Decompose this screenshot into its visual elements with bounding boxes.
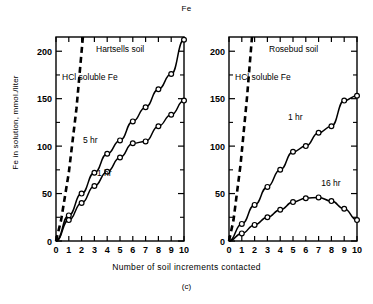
data-point-16-hr bbox=[239, 231, 244, 236]
series-label-5-hr: 5 hr bbox=[83, 135, 98, 145]
x-tick-label: 1 bbox=[66, 245, 71, 255]
data-point-5-hr bbox=[156, 87, 161, 92]
x-tick-label: 2 bbox=[79, 245, 84, 255]
data-point-1-hr bbox=[329, 124, 334, 129]
data-point-1-hr bbox=[182, 98, 187, 103]
x-tick-label: 6 bbox=[303, 245, 308, 255]
data-point-5-hr bbox=[130, 119, 135, 124]
y-tick-label: 50 bbox=[42, 189, 52, 199]
x-tick-label: 1 bbox=[239, 245, 244, 255]
x-tick-label: 7 bbox=[143, 245, 148, 255]
panel-title: Hartsells soil bbox=[96, 44, 144, 54]
x-tick-label: 5 bbox=[117, 245, 122, 255]
y-tick-label: 50 bbox=[215, 189, 225, 199]
y-tick-label: 100 bbox=[37, 142, 52, 152]
y-tick-label: 100 bbox=[210, 142, 225, 152]
data-point-5-hr bbox=[182, 37, 187, 42]
data-point-16-hr bbox=[355, 218, 360, 223]
series-line-hcl-soluble-fe bbox=[56, 37, 83, 241]
y-tick-label: 200 bbox=[210, 47, 225, 57]
data-point-1-hr bbox=[303, 144, 308, 149]
panel-left: 012345678910050100150200Hartsells soilHC… bbox=[37, 37, 189, 255]
data-point-1-hr bbox=[278, 167, 283, 172]
y-tick-label: 150 bbox=[37, 94, 52, 104]
data-point-5-hr bbox=[105, 151, 110, 156]
y-tick-label: 0 bbox=[47, 237, 52, 247]
data-point-5-hr bbox=[66, 213, 71, 218]
data-point-1-hr bbox=[118, 155, 123, 160]
x-tick-label: 3 bbox=[92, 245, 97, 255]
x-tick-label: 0 bbox=[53, 245, 58, 255]
data-point-16-hr bbox=[278, 207, 283, 212]
x-tick-label: 5 bbox=[290, 245, 295, 255]
data-point-1-hr bbox=[265, 185, 270, 190]
data-point-5-hr bbox=[169, 72, 174, 77]
data-point-16-hr bbox=[303, 196, 308, 201]
data-point-16-hr bbox=[329, 199, 334, 204]
x-tick-label: 9 bbox=[342, 245, 347, 255]
data-point-16-hr bbox=[252, 223, 257, 228]
y-tick-label: 150 bbox=[210, 94, 225, 104]
x-tick-label: 10 bbox=[179, 245, 189, 255]
series-label-hcl-soluble-fe: HCl soluble Fe bbox=[62, 72, 118, 82]
data-point-1-hr bbox=[79, 201, 84, 206]
data-point-1-hr bbox=[252, 203, 257, 208]
series-label-1-hr: 1 hr bbox=[97, 168, 112, 178]
data-point-1-hr bbox=[291, 149, 296, 154]
data-point-1-hr bbox=[143, 139, 148, 144]
x-tick-label: 6 bbox=[130, 245, 135, 255]
data-point-5-hr bbox=[143, 105, 148, 110]
x-tick-label: 3 bbox=[265, 245, 270, 255]
x-tick-label: 9 bbox=[169, 245, 174, 255]
data-point-16-hr bbox=[316, 195, 321, 200]
data-point-1-hr bbox=[342, 98, 347, 103]
data-point-1-hr bbox=[156, 124, 161, 129]
series-line-hcl-soluble-fe bbox=[229, 37, 252, 241]
series-label-16-hr: 16 hr bbox=[321, 178, 341, 188]
data-point-1-hr bbox=[66, 218, 71, 223]
series-label-hcl-soluble-fe: HCl soluble Fe bbox=[235, 72, 291, 82]
x-tick-label: 10 bbox=[352, 245, 362, 255]
panel-title: Rosebud soil bbox=[269, 44, 318, 54]
series-label-1-hr: 1 hr bbox=[288, 112, 303, 122]
data-point-5-hr bbox=[79, 191, 84, 196]
plot-canvas: 012345678910050100150200Hartsells soilHC… bbox=[0, 0, 373, 304]
x-tick-label: 4 bbox=[105, 245, 110, 255]
x-tick-label: 8 bbox=[329, 245, 334, 255]
data-point-1-hr bbox=[130, 141, 135, 146]
y-tick-label: 0 bbox=[220, 237, 225, 247]
x-tick-label: 4 bbox=[278, 245, 283, 255]
data-point-1-hr bbox=[316, 130, 321, 135]
data-point-16-hr bbox=[291, 200, 296, 205]
data-point-16-hr bbox=[265, 215, 270, 220]
x-tick-label: 2 bbox=[252, 245, 257, 255]
data-point-1-hr bbox=[92, 184, 97, 189]
x-tick-label: 7 bbox=[316, 245, 321, 255]
data-point-1-hr bbox=[239, 222, 244, 227]
data-point-1-hr bbox=[355, 93, 360, 98]
data-point-1-hr bbox=[169, 112, 174, 117]
data-point-5-hr bbox=[118, 138, 123, 143]
y-tick-label: 200 bbox=[37, 47, 52, 57]
data-point-16-hr bbox=[342, 206, 347, 211]
x-tick-label: 8 bbox=[156, 245, 161, 255]
figure-container: Fe Fe in solution, mmol./liter Number of… bbox=[0, 0, 373, 304]
panel-right: 012345678910050100150200Rosebud soilHCl … bbox=[210, 37, 362, 255]
x-tick-label: 0 bbox=[226, 245, 231, 255]
